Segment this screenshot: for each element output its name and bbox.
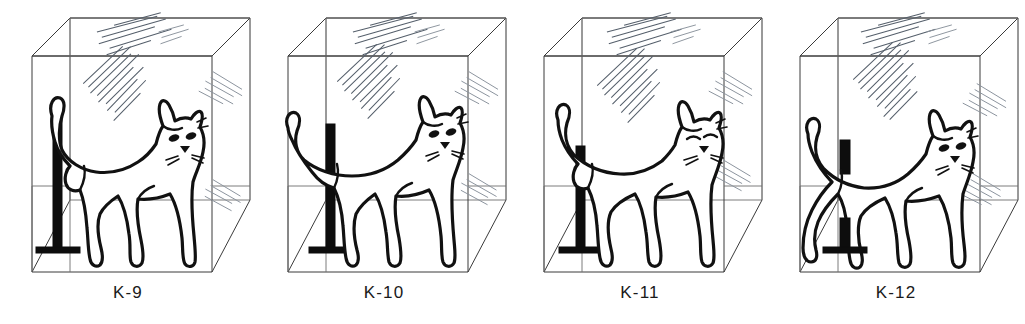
cat-figure	[287, 97, 468, 267]
panel-label: K-11	[512, 283, 768, 303]
cat-figure	[51, 98, 208, 267]
panel-k-12: K-12	[768, 0, 1024, 324]
panel-k-11: K-11	[512, 0, 768, 324]
panel-label: K-12	[768, 283, 1024, 303]
panel-k-10: K-10	[256, 0, 512, 324]
scratching-post-top	[840, 140, 850, 174]
panel-drawing	[768, 0, 1024, 324]
panel-drawing	[256, 0, 512, 324]
figure-plate: K-9	[0, 0, 1025, 324]
panel-drawing	[512, 0, 768, 324]
panel-k-9: K-9	[0, 0, 256, 324]
panel-drawing	[0, 0, 256, 324]
panel-label: K-10	[256, 283, 512, 303]
cat-figure	[803, 111, 978, 268]
panel-label: K-9	[0, 283, 256, 303]
